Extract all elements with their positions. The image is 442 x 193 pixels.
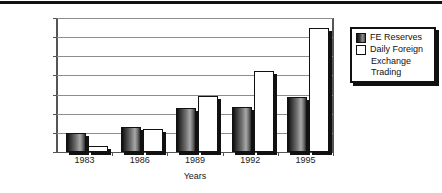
bar-body [176,108,196,152]
legend-item-daily-fx: Daily Foreign [356,44,431,55]
bar-body [121,127,141,152]
legend-swatch-daily-fx [356,45,366,55]
bar-group [223,18,278,152]
x-axis-title: Years [57,171,333,181]
top-rule [0,1,442,4]
bar-group [112,18,167,152]
bar-body [309,28,329,152]
bar-shadow [274,74,277,155]
x-tick-label: 1992 [222,155,278,165]
x-tick-label: 1986 [112,155,168,165]
bar-daily-fx-1992 [254,71,274,152]
legend-item-fe-reserves: FE Reserves [356,32,431,43]
legend-label-daily-fx-line2: Exchange [371,56,431,67]
legend-label-fe-reserves: FE Reserves [370,32,422,43]
bar-daily-fx-1986 [143,129,163,152]
x-tick-mark [333,152,334,156]
y-tick-mark [53,152,57,153]
bar-fe-reserves-1986 [121,127,141,152]
bar-fe-reserves-1995 [287,97,307,153]
bar-fe-reserves-1983 [66,133,86,152]
chart-figure: U.S. Dollars 0200400600800100012001400 1… [0,0,442,193]
chart-legend: FE Reserves Daily Foreign Exchange Tradi… [350,27,436,83]
bar-body [287,97,307,153]
bar-fe-reserves-1992 [232,107,252,152]
bar-fe-reserves-1989 [176,108,196,152]
x-tick-label: 1989 [167,155,223,165]
x-tick-label: 1995 [277,155,333,165]
bar-daily-fx-1995 [309,28,329,152]
legend-swatch-fe-reserves [356,33,366,43]
bar-body [66,133,86,152]
bar-shadow [163,132,166,155]
bar-shadow [218,99,221,155]
bar-body [143,129,163,152]
bar-shadow [329,31,332,155]
legend-label-daily-fx-line3: Trading [371,67,431,78]
bar-body [232,107,252,152]
plot-area: 0200400600800100012001400 19831986198919… [57,18,333,152]
bar-body [88,146,108,152]
bar-group [167,18,222,152]
bar-group [278,18,333,152]
bar-body [198,96,218,152]
legend-label-daily-fx: Daily Foreign [370,44,423,55]
bar-daily-fx-1989 [198,96,218,152]
bar-daily-fx-1983 [88,146,108,152]
x-tick-label: 1983 [57,155,113,165]
bar-body [254,71,274,152]
bar-group [57,18,112,152]
